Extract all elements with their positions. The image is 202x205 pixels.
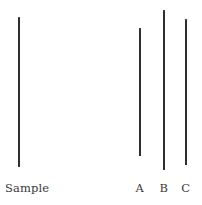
sample-line (18, 17, 20, 167)
line-comparison-figure: Sample A B C (0, 0, 202, 205)
comparison-line-c (185, 19, 187, 165)
comparison-label-a: A (136, 183, 144, 195)
comparison-line-b (163, 10, 165, 170)
comparison-label-b: B (160, 183, 169, 195)
sample-label: Sample (5, 183, 49, 195)
comparison-label-c: C (181, 183, 190, 195)
comparison-line-a (139, 28, 141, 156)
